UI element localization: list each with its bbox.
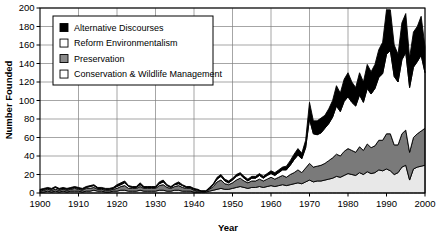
y-tick-label: 40 [24,150,35,161]
y-tick-label: 20 [24,169,35,180]
x-tick-label: 1910 [68,198,89,209]
x-tick-label: 1970 [299,198,320,209]
y-tick-label: 200 [19,2,35,13]
legend-label: Conservation & Wildlife Management [74,69,223,79]
x-tick-label: 1980 [337,198,358,209]
y-tick-label: 140 [19,58,35,69]
y-tick-label: 0 [29,187,34,198]
x-axis-title: Year [218,222,238,233]
y-tick-label: 60 [24,132,35,143]
y-tick-label: 80 [24,113,35,124]
x-axis-ticks: 1900191019201930194019501960197019801990… [29,193,435,209]
legend-swatch [60,24,68,32]
legend-swatch [60,70,68,78]
x-tick-label: 1930 [145,198,166,209]
stacked-area-chart: 020406080100120140160180200 190019101920… [0,0,443,236]
y-tick-label: 160 [19,39,35,50]
chart-legend: Alternative DiscoursesReform Environment… [53,16,223,85]
y-tick-label: 120 [19,76,35,87]
x-tick-label: 1990 [376,198,397,209]
legend-label: Alternative Discourses [74,23,164,33]
legend-label: Reform Environmentalism [74,38,178,48]
legend-swatch [60,39,68,47]
legend-label: Preservation [74,54,125,64]
y-tick-label: 180 [19,21,35,32]
y-axis-title: Number Founded [3,60,14,139]
x-tick-label: 1900 [29,198,50,209]
y-axis-ticks: 020406080100120140160180200 [19,2,40,198]
y-tick-label: 100 [19,95,35,106]
x-tick-label: 2000 [414,198,435,209]
x-tick-label: 1920 [106,198,127,209]
legend-swatch [60,55,68,63]
chart-figure: 020406080100120140160180200 190019101920… [0,0,443,236]
x-tick-label: 1950 [222,198,243,209]
x-tick-label: 1940 [183,198,204,209]
x-tick-label: 1960 [260,198,281,209]
